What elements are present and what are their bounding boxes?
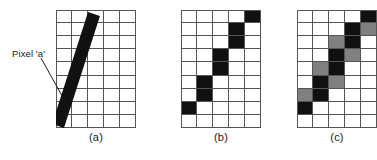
pixel-cell bbox=[245, 115, 261, 128]
pixel-cell bbox=[245, 76, 261, 89]
pixel-cell bbox=[197, 89, 213, 102]
pixel-cell bbox=[245, 10, 261, 23]
pixel-cell bbox=[197, 102, 213, 115]
pixel-cell bbox=[197, 76, 213, 89]
pixel-cell bbox=[245, 36, 261, 49]
pixel-cell bbox=[56, 89, 72, 102]
pixel-cell bbox=[297, 36, 313, 49]
pixel-cell bbox=[56, 49, 72, 62]
pixel-cell bbox=[213, 23, 229, 36]
pixel-cell bbox=[229, 76, 245, 89]
pixel-cell bbox=[245, 23, 261, 36]
pixel-cell bbox=[297, 89, 313, 102]
pixel-cell bbox=[88, 62, 104, 75]
pixel-cell bbox=[345, 89, 361, 102]
pixel-cell bbox=[88, 89, 104, 102]
pixel-cell bbox=[361, 76, 377, 89]
pixel-cell bbox=[72, 62, 88, 75]
panel-b bbox=[181, 10, 261, 128]
pixel-cell bbox=[329, 102, 345, 115]
pixel-cell bbox=[245, 89, 261, 102]
panel-a bbox=[56, 10, 136, 128]
pixel-cell bbox=[72, 10, 88, 23]
pixel-cell bbox=[213, 36, 229, 49]
pixel-cell bbox=[181, 102, 197, 115]
pixel-cell bbox=[297, 23, 313, 36]
pixel-cell bbox=[56, 36, 72, 49]
pixel-cell bbox=[181, 10, 197, 23]
pixel-cell bbox=[181, 76, 197, 89]
pixel-cell bbox=[297, 49, 313, 62]
pixel-cell bbox=[88, 10, 104, 23]
pixel-cell bbox=[197, 23, 213, 36]
pixel-cell bbox=[345, 115, 361, 128]
pixel-cell bbox=[72, 76, 88, 89]
pixel-cell bbox=[56, 102, 72, 115]
pixel-cell bbox=[72, 89, 88, 102]
pixel-cell bbox=[56, 10, 72, 23]
pixel-a-annotation-label: Pixel 'a' bbox=[12, 48, 45, 59]
pixel-cell bbox=[245, 49, 261, 62]
pixel-cell bbox=[345, 102, 361, 115]
pixel-cell bbox=[245, 62, 261, 75]
pixel-cell bbox=[329, 76, 345, 89]
caption-c: (c) bbox=[297, 131, 377, 143]
pixel-cell bbox=[88, 102, 104, 115]
pixel-cell bbox=[329, 89, 345, 102]
pixel-cell bbox=[345, 23, 361, 36]
pixel-cell bbox=[213, 102, 229, 115]
pixel-cell bbox=[88, 76, 104, 89]
pixel-cell bbox=[345, 62, 361, 75]
pixel-cell bbox=[245, 102, 261, 115]
pixel-cell bbox=[104, 62, 120, 75]
pixel-cell bbox=[229, 62, 245, 75]
pixel-cell bbox=[181, 36, 197, 49]
pixel-cell bbox=[329, 49, 345, 62]
pixel-cell bbox=[197, 36, 213, 49]
pixel-cell bbox=[104, 23, 120, 36]
caption-a: (a) bbox=[56, 131, 136, 143]
pixel-cell bbox=[229, 89, 245, 102]
pixel-cell bbox=[120, 102, 136, 115]
pixel-cell bbox=[361, 62, 377, 75]
pixel-cell bbox=[213, 76, 229, 89]
pixel-cell bbox=[72, 115, 88, 128]
pixel-cell bbox=[329, 115, 345, 128]
pixel-cell bbox=[104, 89, 120, 102]
pixel-cell bbox=[213, 49, 229, 62]
pixel-cell bbox=[120, 62, 136, 75]
pixel-cell bbox=[181, 23, 197, 36]
pixel-cell bbox=[229, 10, 245, 23]
pixel-grid-a bbox=[56, 10, 136, 128]
pixel-cell bbox=[297, 76, 313, 89]
pixel-cell bbox=[229, 36, 245, 49]
pixel-cell bbox=[104, 102, 120, 115]
pixel-cell bbox=[361, 115, 377, 128]
pixel-cell bbox=[213, 62, 229, 75]
pixel-cell bbox=[313, 102, 329, 115]
pixel-cell bbox=[88, 36, 104, 49]
pixel-cell bbox=[72, 36, 88, 49]
pixel-cell bbox=[345, 10, 361, 23]
pixel-cell bbox=[120, 10, 136, 23]
pixel-cell bbox=[197, 115, 213, 128]
pixel-cell bbox=[72, 49, 88, 62]
pixel-cell bbox=[104, 76, 120, 89]
pixel-cell bbox=[361, 36, 377, 49]
pixel-cell bbox=[313, 36, 329, 49]
pixel-cell bbox=[229, 49, 245, 62]
pixel-cell bbox=[104, 10, 120, 23]
pixel-cell bbox=[361, 10, 377, 23]
pixel-cell bbox=[313, 76, 329, 89]
pixel-cell bbox=[56, 76, 72, 89]
pixel-cell bbox=[297, 10, 313, 23]
pixel-cell bbox=[229, 23, 245, 36]
pixel-cell bbox=[213, 89, 229, 102]
pixel-cell bbox=[104, 49, 120, 62]
pixel-cell bbox=[120, 115, 136, 128]
pixel-cell bbox=[213, 115, 229, 128]
pixel-cell bbox=[56, 115, 72, 128]
pixel-cell bbox=[120, 49, 136, 62]
pixel-cell bbox=[104, 115, 120, 128]
